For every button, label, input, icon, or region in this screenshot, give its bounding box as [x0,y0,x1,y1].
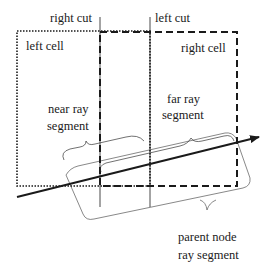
parent-brace-bump [200,200,216,210]
far-ray-label-line1: far ray [167,92,201,106]
far-ray-label-line2: segment [162,108,204,122]
parent-label-line2: ray segment [178,248,239,262]
right-cut-label: right cut [50,11,93,25]
left-cut-label: left cut [155,11,191,25]
kd-tree-ray-diagram: right cut left cut left cell right cell … [0,0,270,272]
far-ray-brace [100,136,234,172]
near-ray-brace [63,136,144,160]
left-cell-label: left cell [26,39,64,53]
near-ray-label-line2: segment [47,119,89,133]
ray-arrow [17,137,259,197]
near-ray-label-line1: near ray [48,102,89,116]
right-cell-label: right cell [181,41,226,55]
parent-label-line1: parent node [178,230,237,244]
